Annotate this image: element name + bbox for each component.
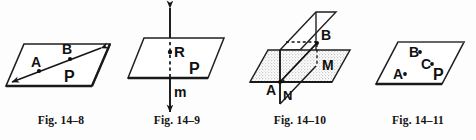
figure-sheet: A B P Fig. 14–8 R P — [0, 0, 476, 140]
point-label-a-14-10: A — [266, 82, 276, 98]
point-label-n-14-10: N — [283, 88, 292, 103]
point-label-c-14-11: C — [421, 56, 431, 72]
figure-panel-14-11: A B C P Fig. 14–11 — [360, 0, 476, 140]
point-dot-b-14-10 — [315, 41, 319, 45]
point-dot-r-14-9 — [168, 50, 172, 54]
figure-caption-14-8: Fig. 14–8 — [0, 114, 122, 126]
figure-diagram-14-9: R P m — [118, 0, 236, 112]
point-dot-b-14-8 — [68, 57, 72, 61]
point-dot-a-14-10 — [278, 80, 282, 84]
plane-label-p-14-11: P — [433, 66, 444, 83]
plane-label-p-14-9: P — [189, 60, 200, 77]
point-label-a-14-8: A — [31, 54, 41, 70]
point-dot-a-14-11 — [403, 72, 407, 76]
figure-caption-14-9: Fig. 14–9 — [118, 114, 236, 126]
horizontal-plane-14-10 — [250, 50, 350, 82]
figure-panel-14-9: R P m Fig. 14–9 — [118, 0, 236, 140]
figure-caption-14-11: Fig. 14–11 — [360, 114, 476, 126]
figure-diagram-14-10: B M A N — [238, 0, 362, 112]
point-label-b-14-10: B — [321, 27, 331, 43]
point-label-r-14-9: R — [174, 43, 185, 60]
figure-caption-14-10: Fig. 14–10 — [238, 114, 362, 126]
point-label-b-14-11: B — [409, 44, 419, 60]
figure-panel-14-10: B M A N Fig. 14–10 — [238, 0, 362, 140]
figure-diagram-14-11: A B C P — [360, 0, 476, 112]
line-label-m-14-9: m — [174, 84, 186, 100]
figure-diagram-14-8: A B P — [0, 0, 122, 112]
point-label-b-14-8: B — [62, 41, 72, 57]
point-label-a-14-11: A — [393, 66, 403, 82]
plane-label-p-14-8: P — [64, 68, 75, 85]
figure-panel-14-8: A B P Fig. 14–8 — [0, 0, 122, 140]
point-label-m-14-10: M — [322, 57, 334, 73]
plane-outline-14-11 — [376, 42, 464, 84]
